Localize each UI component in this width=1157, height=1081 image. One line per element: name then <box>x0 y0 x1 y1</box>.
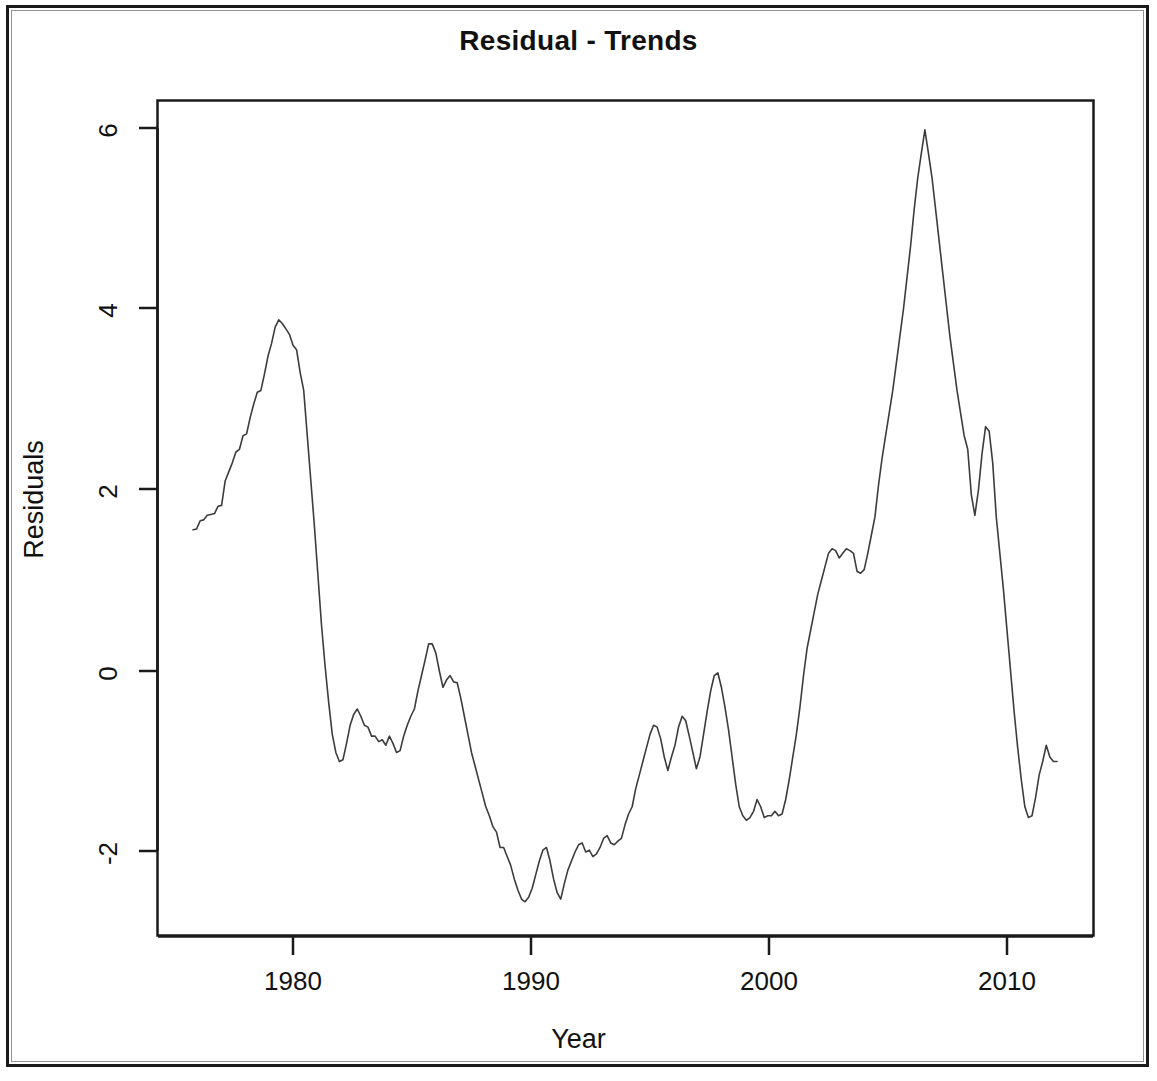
residual-trends-line-chart <box>0 0 1157 1081</box>
chart-page: Residual - Trends 6 4 2 0 -2 1980 1990 <box>0 0 1157 1081</box>
y-tick-label-2: 2 <box>93 462 124 522</box>
x-axis-title: Year <box>0 1024 1157 1055</box>
y-tick-label-6: 6 <box>93 101 124 161</box>
y-tick-label-0: 0 <box>93 644 124 704</box>
x-axis <box>158 937 1093 956</box>
x-tick-label-2000: 2000 <box>719 966 819 997</box>
y-axis-title: Residuals <box>19 420 50 580</box>
x-tick-label-2010: 2010 <box>957 966 1057 997</box>
x-tick-label-1990: 1990 <box>481 966 581 997</box>
y-tick-label-minus2: -2 <box>93 824 124 884</box>
residual-series-line <box>193 130 1057 902</box>
y-tick-label-4: 4 <box>93 281 124 341</box>
y-axis <box>139 128 158 851</box>
x-tick-label-1980: 1980 <box>243 966 343 997</box>
plot-frame <box>158 101 1094 936</box>
